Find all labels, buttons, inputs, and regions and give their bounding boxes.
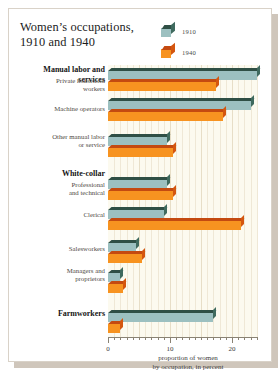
axis-tick-label: 0 [106, 345, 110, 353]
category-label-line: and technical [19, 189, 105, 197]
category-label: Managers andproprietors [19, 267, 105, 283]
axis-tick [164, 337, 165, 340]
category-label: Professionaland technical [19, 181, 105, 197]
legend: 1910 1940 [161, 21, 246, 63]
axis-tick [244, 337, 245, 340]
axis-tick [189, 337, 190, 340]
axis-tick [145, 337, 146, 340]
axis-tick [232, 337, 233, 343]
axis-tick [207, 337, 208, 340]
bar-1940 [108, 82, 216, 91]
category-label-line: Manual labor and [19, 65, 105, 75]
bar-1940 [108, 284, 123, 293]
axis-caption-line-1: proportion of women [108, 354, 268, 363]
axis-tick [220, 337, 221, 340]
category-label: Other manual laboror service [19, 133, 105, 149]
bar-1940 [108, 254, 142, 263]
title-line-1: Women’s occupations, [20, 20, 155, 35]
legend-item-1940[interactable]: 1940 [161, 42, 246, 63]
category-label-line: proprietors [19, 275, 105, 283]
category-label-line: Clerical [19, 211, 105, 219]
axis-tick [133, 337, 134, 340]
category-label: Clerical [19, 211, 105, 219]
gridline [257, 65, 258, 337]
category-label-line: Salesworkers [19, 245, 105, 253]
axis-tick [257, 337, 258, 340]
axis-tick [151, 337, 152, 340]
chart-card: Women’s occupations, 1910 and 1940 1910 … [8, 8, 272, 362]
cube-icon [161, 25, 176, 38]
bar-1940 [108, 324, 120, 333]
legend-label-1940: 1940 [182, 49, 196, 56]
category-label-line: or service [19, 141, 105, 149]
x-axis: 01020 [108, 337, 258, 345]
axis-tick [108, 337, 109, 343]
axis-tick [170, 337, 171, 343]
category-label: White-collar [19, 169, 105, 179]
axis-tick [176, 337, 177, 340]
bar-1940 [108, 112, 223, 121]
axis-caption: proportion of women by occupation, in pe… [108, 354, 268, 372]
category-label-line: White-collar [19, 169, 105, 179]
axis-tick [139, 337, 140, 340]
axis-tick [182, 337, 183, 340]
axis-tick [226, 337, 227, 340]
chart-page: Women’s occupations, 1910 and 1940 1910 … [0, 0, 280, 391]
category-label-line: Machine operators [19, 105, 105, 113]
legend-item-1910[interactable]: 1910 [161, 21, 246, 42]
bar-1940 [108, 191, 173, 200]
title-line-2: 1910 and 1940 [20, 35, 155, 50]
category-label: Machine operators [19, 105, 105, 113]
axis-tick [251, 337, 252, 340]
axis-tick [158, 337, 159, 340]
axis-tick-label: 20 [229, 345, 236, 353]
bar-1940 [108, 148, 173, 157]
bar-1940 [108, 221, 241, 230]
axis-tick [120, 337, 121, 340]
category-label: Farmworkers [19, 309, 105, 319]
category-label-line: Professional [19, 181, 105, 189]
category-label: Private householdworkers [19, 77, 105, 93]
category-label-line: workers [19, 85, 105, 93]
category-label-line: Farmworkers [19, 309, 105, 319]
axis-tick-label: 10 [167, 345, 174, 353]
category-label-line: Other manual labor [19, 133, 105, 141]
axis-tick [127, 337, 128, 340]
legend-label-1910: 1910 [182, 28, 196, 35]
category-label-line: Managers and [19, 267, 105, 275]
category-label-line: Private household [19, 77, 105, 85]
page-title: Women’s occupations, 1910 and 1940 [20, 20, 155, 49]
axis-tick [213, 337, 214, 340]
axis-tick [195, 337, 196, 340]
axis-tick [201, 337, 202, 340]
plot-area [108, 65, 258, 337]
category-label: Salesworkers [19, 245, 105, 253]
axis-caption-line-2: by occupation, in percent [108, 363, 268, 372]
axis-tick [114, 337, 115, 340]
axis-tick [238, 337, 239, 340]
cube-icon [161, 46, 176, 59]
